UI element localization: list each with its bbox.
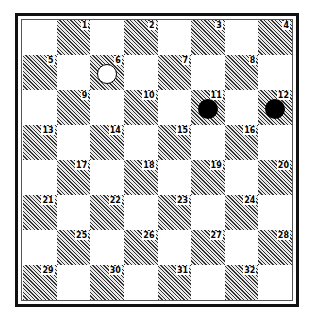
light-square xyxy=(57,265,91,300)
square-number: 18 xyxy=(142,161,155,170)
dark-square[interactable]: 10 xyxy=(124,90,158,125)
square-number: 10 xyxy=(142,91,155,100)
light-square xyxy=(124,55,158,90)
dark-square[interactable]: 30 xyxy=(90,265,124,300)
square-number: 14 xyxy=(109,126,122,135)
light-square xyxy=(124,195,158,230)
square-number: 26 xyxy=(142,231,155,240)
square-number: 11 xyxy=(210,91,223,100)
square-number: 22 xyxy=(109,196,122,205)
dark-square[interactable]: 28 xyxy=(258,230,292,265)
square-number: 7 xyxy=(182,56,190,65)
light-square xyxy=(23,20,57,55)
dark-square[interactable]: 25 xyxy=(57,230,91,265)
light-square xyxy=(225,160,259,195)
dark-square[interactable]: 2 xyxy=(124,20,158,55)
light-square xyxy=(90,230,124,265)
square-number: 17 xyxy=(75,161,88,170)
square-number: 30 xyxy=(109,266,122,275)
square-number: 23 xyxy=(176,196,189,205)
light-square xyxy=(57,55,91,90)
dark-square[interactable]: 9 xyxy=(57,90,91,125)
dark-square[interactable]: 1 xyxy=(57,20,91,55)
dark-square[interactable]: 32 xyxy=(225,265,259,300)
square-number: 20 xyxy=(277,161,290,170)
square-number: 19 xyxy=(210,161,223,170)
dark-square[interactable]: 7 xyxy=(158,55,192,90)
dark-square[interactable]: 20 xyxy=(258,160,292,195)
square-number: 6 xyxy=(114,56,122,65)
square-number: 1 xyxy=(81,21,89,30)
square-number: 16 xyxy=(243,126,256,135)
dark-square[interactable]: 31 xyxy=(158,265,192,300)
dark-square[interactable]: 21 xyxy=(23,195,57,230)
dark-square[interactable]: 27 xyxy=(191,230,225,265)
light-square xyxy=(191,125,225,160)
dark-square[interactable]: 19 xyxy=(191,160,225,195)
light-square xyxy=(90,20,124,55)
light-square xyxy=(23,90,57,125)
light-square xyxy=(225,230,259,265)
light-square xyxy=(258,125,292,160)
square-number: 21 xyxy=(41,196,54,205)
dark-square[interactable]: 18 xyxy=(124,160,158,195)
light-square xyxy=(191,55,225,90)
square-number: 25 xyxy=(75,231,88,240)
light-square xyxy=(90,160,124,195)
square-number: 3 xyxy=(215,21,223,30)
light-square xyxy=(158,160,192,195)
dark-square[interactable]: 14 xyxy=(90,125,124,160)
dark-square[interactable]: 26 xyxy=(124,230,158,265)
square-number: 4 xyxy=(282,21,290,30)
square-number: 15 xyxy=(176,126,189,135)
dark-square[interactable]: 6 xyxy=(90,55,124,90)
dark-square[interactable]: 4 xyxy=(258,20,292,55)
dark-square[interactable]: 11 xyxy=(191,90,225,125)
dark-square[interactable]: 17 xyxy=(57,160,91,195)
square-number: 32 xyxy=(243,266,256,275)
dark-square[interactable]: 29 xyxy=(23,265,57,300)
dark-square[interactable]: 5 xyxy=(23,55,57,90)
square-number: 31 xyxy=(176,266,189,275)
light-square xyxy=(191,265,225,300)
white-piece[interactable] xyxy=(97,64,117,84)
light-square xyxy=(258,55,292,90)
board-frame: 1234567891011121314151617181920212223242… xyxy=(15,13,299,307)
square-number: 24 xyxy=(243,196,256,205)
light-square xyxy=(90,90,124,125)
black-piece[interactable] xyxy=(265,99,285,119)
light-square xyxy=(57,125,91,160)
dark-square[interactable]: 23 xyxy=(158,195,192,230)
light-square xyxy=(23,160,57,195)
light-square xyxy=(158,90,192,125)
light-square xyxy=(225,90,259,125)
black-piece[interactable] xyxy=(198,99,218,119)
light-square xyxy=(225,20,259,55)
square-number: 27 xyxy=(210,231,223,240)
dark-square[interactable]: 3 xyxy=(191,20,225,55)
dark-square[interactable]: 8 xyxy=(225,55,259,90)
square-number: 28 xyxy=(277,231,290,240)
light-square xyxy=(191,195,225,230)
square-number: 29 xyxy=(41,266,54,275)
dark-square[interactable]: 22 xyxy=(90,195,124,230)
light-square xyxy=(158,230,192,265)
light-square xyxy=(258,265,292,300)
dark-square[interactable]: 15 xyxy=(158,125,192,160)
board-inner-border: 1234567891011121314151617181920212223242… xyxy=(21,19,293,301)
checkers-board: 1234567891011121314151617181920212223242… xyxy=(23,20,292,300)
dark-square[interactable]: 12 xyxy=(258,90,292,125)
square-number: 8 xyxy=(249,56,257,65)
light-square xyxy=(124,265,158,300)
light-square xyxy=(23,230,57,265)
light-square xyxy=(258,195,292,230)
light-square xyxy=(124,125,158,160)
square-number: 5 xyxy=(47,56,55,65)
light-square xyxy=(158,20,192,55)
square-number: 2 xyxy=(148,21,156,30)
dark-square[interactable]: 16 xyxy=(225,125,259,160)
dark-square[interactable]: 13 xyxy=(23,125,57,160)
square-number: 13 xyxy=(41,126,54,135)
dark-square[interactable]: 24 xyxy=(225,195,259,230)
square-number: 9 xyxy=(81,91,89,100)
